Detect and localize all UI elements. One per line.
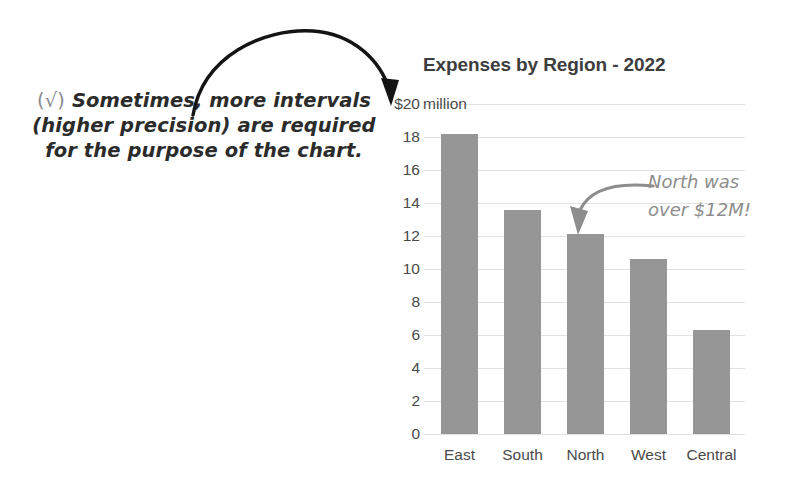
y-axis-tick-label: 14 (388, 194, 420, 212)
y-axis-tick-label: 8 (388, 293, 420, 311)
bar-chart: Expenses by Region - 2022 $20million1816… (388, 48, 808, 488)
y-axis-tick-label: 12 (388, 227, 420, 245)
gridline (424, 104, 745, 105)
y-axis-tick-label: $20million (388, 95, 467, 113)
callout-note-line-2: over $12M! (648, 196, 751, 224)
y-axis-tick-label: 6 (388, 326, 420, 344)
y-axis-tick-label: 0 (388, 425, 420, 443)
y-axis-tick-label: 10 (388, 260, 420, 278)
checkmark-icon: (√) (37, 89, 65, 112)
y-axis-tick-label: 16 (388, 161, 420, 179)
black-curved-arrow-icon (185, 12, 415, 117)
chart-title: Expenses by Region - 2022 (423, 54, 666, 76)
y-axis-unit-label: million (423, 95, 467, 112)
x-axis-label-east: East (444, 446, 475, 464)
handwritten-note-line-3: for the purpose of the chart. (24, 138, 384, 163)
y-axis-tick-label: 18 (388, 128, 420, 146)
y-axis-top-value: $20 (388, 95, 420, 113)
callout-note: North was over $12M! (648, 168, 751, 224)
x-axis-label-central: Central (687, 446, 737, 464)
bar-east[interactable] (441, 134, 478, 434)
y-axis-tick-label: 4 (388, 359, 420, 377)
bar-south[interactable] (504, 210, 541, 434)
gridline (424, 434, 745, 435)
x-axis-label-north: North (567, 446, 605, 464)
x-axis-label-south: South (502, 446, 543, 464)
y-axis-tick-label: 2 (388, 392, 420, 410)
x-axis-label-west: West (631, 446, 666, 464)
bar-west[interactable] (630, 259, 667, 434)
bar-central[interactable] (693, 330, 730, 434)
chart-screenshot: (√) Sometimes, more intervals (higher pr… (0, 0, 808, 494)
gray-curved-arrow-icon (552, 176, 657, 244)
plot-area: $20million181614121086420 EastSouthNorth… (388, 94, 808, 436)
bar-north[interactable] (567, 234, 604, 434)
callout-note-line-1: North was (648, 168, 751, 196)
